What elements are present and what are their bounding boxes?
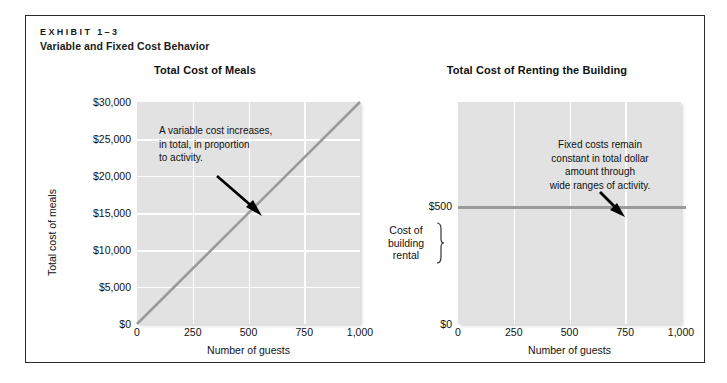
exhibit-frame: EXHIBIT 1–3 Variable and Fixed Cost Beha… bbox=[25, 15, 705, 363]
annotation-line: Fixed costs remain bbox=[520, 138, 680, 152]
callout-line: rental bbox=[378, 249, 434, 262]
gridline-vertical bbox=[514, 102, 516, 324]
exhibit-subtitle: Variable and Fixed Cost Behavior bbox=[40, 39, 210, 53]
fixed-cost-line bbox=[458, 206, 686, 209]
gridline-vertical bbox=[570, 102, 572, 324]
annotation-line: A variable cost increases, bbox=[159, 124, 324, 138]
x-tick-label: 0 bbox=[455, 326, 461, 338]
annotation-variable-cost: A variable cost increases, in total, in … bbox=[159, 124, 324, 165]
cost-callout-label: Cost of building rental bbox=[378, 224, 434, 262]
x-tick-label: 250 bbox=[505, 326, 523, 338]
chart-title-right: Total Cost of Renting the Building bbox=[378, 64, 696, 76]
cost-of-building-rental-callout: Cost of building rental bbox=[378, 222, 456, 264]
y-tick-label: $0 bbox=[440, 318, 452, 330]
x-tick-label: 1,000 bbox=[347, 326, 373, 338]
exhibit-header: EXHIBIT 1–3 Variable and Fixed Cost Beha… bbox=[40, 26, 210, 53]
annotation-fixed-cost: Fixed costs remain constant in total dol… bbox=[520, 138, 680, 192]
y-tick-label: $30,000 bbox=[93, 96, 131, 108]
x-axis-ticks-left: 0 250 500 750 1,000 bbox=[137, 326, 360, 342]
x-tick-label: 500 bbox=[240, 326, 258, 338]
annotation-arrow-icon bbox=[215, 174, 271, 222]
callout-line: Cost of bbox=[378, 224, 434, 237]
x-tick-label: 750 bbox=[616, 326, 634, 338]
x-axis-title-right: Number of guests bbox=[458, 344, 681, 356]
y-tick-label: $0 bbox=[119, 318, 131, 330]
y-tick-label: $15,000 bbox=[93, 207, 131, 219]
y-axis-ticks-left: $30,000 $25,000 $20,000 $15,000 $10,000 … bbox=[40, 102, 131, 324]
y-axis-ticks-right: $500 $0 bbox=[378, 102, 452, 324]
x-tick-label: 1,000 bbox=[668, 326, 694, 338]
curly-brace-icon bbox=[436, 222, 443, 264]
x-tick-label: 0 bbox=[134, 326, 140, 338]
plot-area-left: A variable cost increases, in total, in … bbox=[137, 102, 360, 324]
x-tick-label: 500 bbox=[561, 326, 579, 338]
chart-title-left: Total Cost of Meals bbox=[40, 64, 370, 76]
chart-total-cost-of-renting-the-building: Total Cost of Renting the Building $500 … bbox=[378, 64, 696, 356]
plot-area-right: Fixed costs remain constant in total dol… bbox=[458, 102, 681, 324]
exhibit-label: EXHIBIT 1–3 bbox=[40, 26, 210, 38]
callout-line: building bbox=[378, 237, 434, 250]
y-tick-label: $10,000 bbox=[93, 244, 131, 256]
y-tick-label: $25,000 bbox=[93, 133, 131, 145]
x-axis-ticks-right: 0 250 500 750 1,000 bbox=[458, 326, 681, 342]
y-tick-label: $5,000 bbox=[99, 281, 131, 293]
annotation-line: to activity. bbox=[159, 151, 324, 165]
annotation-line: constant in total dollar bbox=[520, 152, 680, 166]
annotation-arrow-icon bbox=[598, 190, 632, 222]
y-tick-label: $20,000 bbox=[93, 170, 131, 182]
x-tick-label: 750 bbox=[295, 326, 313, 338]
annotation-line: in total, in proportion bbox=[159, 138, 324, 152]
chart-total-cost-of-meals: Total Cost of Meals Total cost of meals … bbox=[40, 64, 370, 356]
x-tick-label: 250 bbox=[184, 326, 202, 338]
x-axis-title-left: Number of guests bbox=[137, 344, 360, 356]
annotation-line: amount through bbox=[520, 165, 680, 179]
y-tick-label: $500 bbox=[429, 200, 452, 212]
